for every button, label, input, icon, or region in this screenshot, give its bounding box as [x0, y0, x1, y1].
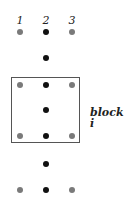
black-dot [43, 107, 49, 113]
black-dot [43, 29, 49, 35]
gray-dot [69, 187, 75, 193]
black-dot [43, 187, 49, 193]
gray-dot [17, 187, 23, 193]
block-label: block i [90, 107, 128, 129]
black-dot [43, 82, 49, 88]
column-label-1: 1 [17, 15, 24, 26]
black-dot [43, 161, 49, 167]
black-dot [43, 133, 49, 139]
gray-dot [17, 29, 23, 35]
gray-dot [69, 133, 75, 139]
gray-dot [69, 82, 75, 88]
column-label-2: 2 [43, 15, 50, 26]
gray-dot [69, 29, 75, 35]
column-label-3: 3 [69, 15, 76, 26]
black-dot [43, 55, 49, 61]
gray-dot [17, 133, 23, 139]
gray-dot [17, 82, 23, 88]
